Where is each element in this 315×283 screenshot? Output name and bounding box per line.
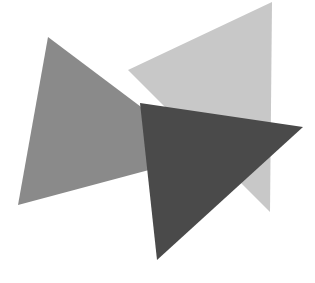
triangles-figure: [0, 0, 315, 283]
figure-canvas: [0, 0, 315, 283]
